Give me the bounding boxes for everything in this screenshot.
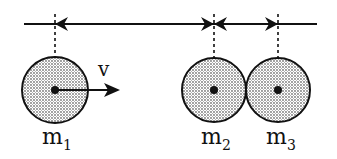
ball-m2 [182,58,246,122]
label-m1: m1 [42,124,72,153]
ball-m3 [246,58,310,122]
velocity-label: v [97,57,110,81]
collision-diagram: v m1 m2 m3 [0,0,337,159]
label-m3: m3 [266,124,296,153]
label-m2: m2 [201,124,231,153]
